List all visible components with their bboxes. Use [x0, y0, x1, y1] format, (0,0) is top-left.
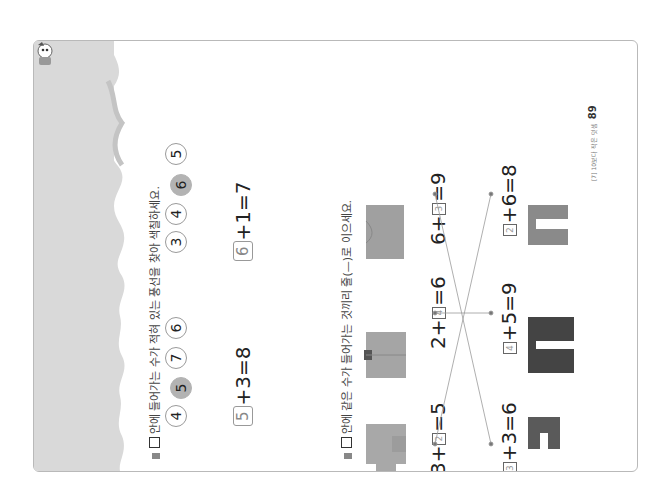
connect-dot — [489, 192, 493, 196]
bottom-equation-2: 4+5=9 — [497, 282, 521, 355]
connection-lines — [34, 41, 637, 471]
shorts-icon — [526, 413, 562, 453]
workbook-page: 안에 들어가는 수가 적혀 있는 풍선을 찾아 색칠하세요. 4 5 7 6 5… — [33, 40, 638, 472]
connect-dot — [433, 442, 437, 446]
answer-box[interactable]: 3 — [503, 462, 517, 472]
page-number: 89 — [587, 105, 598, 119]
chapter-label: [7] 10보다 작은 덧셈 — [590, 123, 597, 181]
leggings-icon — [526, 201, 570, 249]
answer-box[interactable]: 4 — [503, 342, 517, 354]
bottom-equation-1: 3+3=6 — [497, 402, 521, 472]
connect-dot — [489, 311, 493, 315]
connect-dot — [433, 192, 437, 196]
page-footer: [7] 10보다 작은 덧셈89 — [587, 105, 598, 181]
pants-icon — [526, 313, 576, 377]
bottom-equation-3: 2+6=8 — [497, 164, 521, 237]
connect-dot — [433, 311, 437, 315]
answer-box[interactable]: 2 — [503, 224, 517, 236]
connect-dot — [489, 442, 493, 446]
